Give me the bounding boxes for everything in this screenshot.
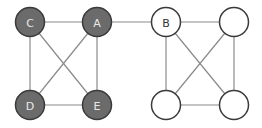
node-r2 — [152, 91, 181, 120]
node-c-label: C — [26, 17, 34, 30]
node-d: D — [16, 91, 45, 120]
node-e: E — [83, 91, 112, 120]
node-d-label: D — [26, 100, 34, 113]
node-r1 — [220, 8, 249, 37]
node-e-label: E — [94, 100, 101, 113]
node-c: C — [16, 8, 45, 37]
node-b-label: B — [162, 17, 170, 30]
node-b: B — [152, 8, 181, 37]
node-r3 — [220, 91, 249, 120]
graph-diagram: C A D E B — [0, 0, 262, 128]
node-a: A — [83, 8, 112, 37]
node-a-label: A — [93, 17, 101, 30]
